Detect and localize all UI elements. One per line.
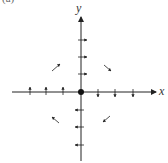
y-axis-label: y [76,1,81,16]
x-axis-label: x [159,84,164,99]
x-axis-positive-vectors [98,89,133,97]
origin-dot [78,89,84,95]
y-axis-positive-vectors [78,40,87,74]
y-axis-negative-vectors [75,110,84,145]
x-axis-negative-vectors [30,87,63,95]
vector-field-diagram [0,0,168,163]
